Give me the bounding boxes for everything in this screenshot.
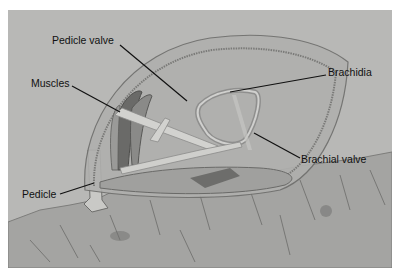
label-brachial-valve: Brachial valve <box>301 154 366 165</box>
illustration-panel <box>8 10 392 268</box>
brachiopod-illustration <box>8 10 392 268</box>
label-pedicle-valve: Pedicle valve <box>52 35 114 46</box>
label-pedicle: Pedicle <box>22 189 56 200</box>
label-brachidia: Brachidia <box>328 67 372 78</box>
label-muscles: Muscles <box>31 78 70 89</box>
